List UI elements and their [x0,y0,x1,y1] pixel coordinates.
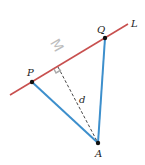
point-Q [103,36,107,40]
distance-diagram: M P Q A L d [0,0,145,165]
label-Q: Q [97,24,105,35]
line-L [10,24,128,95]
label-P: P [26,67,34,78]
label-L: L [130,18,138,29]
point-A [96,141,100,145]
segment-PA [32,82,98,143]
label-A: A [94,148,102,159]
right-angle-marker [54,69,61,73]
perpendicular-d [58,67,98,143]
label-d: d [79,94,85,105]
segment-QA [98,38,105,143]
point-P [30,80,34,84]
ghost-m-mark: M [47,36,67,54]
